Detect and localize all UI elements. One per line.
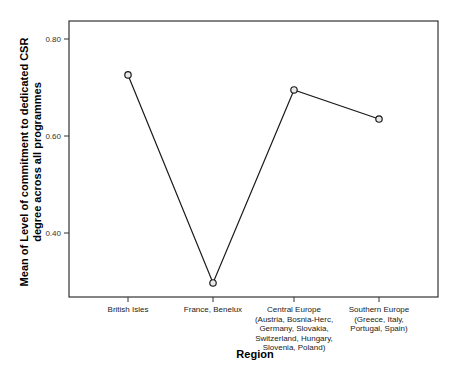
x-category-label: Switzerland, Hungary, — [255, 334, 333, 343]
y-axis-title: Mean of Level of commitment to dedicated… — [18, 38, 43, 287]
data-point-marker — [376, 116, 382, 122]
x-category-label: Portugal, Spain) — [350, 324, 408, 333]
y-axis-ticks: 0.400.600.80 — [45, 35, 69, 238]
x-category-label: Germany, Slovakia, — [259, 324, 328, 333]
y-tick-label: 0.40 — [45, 229, 61, 238]
x-category-label: France, Benelux — [184, 305, 242, 314]
line-chart: 0.400.600.80 British IslesFrance, Benelu… — [0, 0, 459, 369]
y-tick-label: 0.60 — [45, 132, 61, 141]
x-category-label: (Greece, Italy, — [354, 315, 404, 324]
y-axis-title-line-1: Mean of Level of commitment to dedicated… — [18, 38, 30, 287]
data-point-marker — [125, 72, 131, 78]
x-axis-title: Region — [236, 348, 274, 360]
x-category-label: Southern Europe — [349, 305, 410, 314]
data-point-marker — [210, 280, 216, 286]
y-tick-label: 0.80 — [45, 35, 61, 44]
x-category-label: Central Europe — [267, 305, 321, 314]
x-category-label: (Austria, Bosnia-Herc, — [255, 315, 333, 324]
x-axis-ticks: British IslesFrance, BeneluxCentral Euro… — [108, 297, 410, 352]
x-category-label: British Isles — [108, 305, 149, 314]
plot-area — [69, 21, 438, 297]
y-axis-title-line-2: degree across all programmes — [31, 82, 43, 242]
data-point-marker — [291, 87, 297, 93]
